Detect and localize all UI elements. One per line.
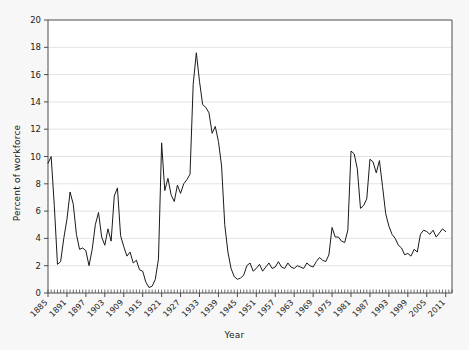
x-tick-label: 1945 [218, 298, 239, 319]
x-tick-label: 1885 [29, 298, 50, 319]
x-tick-label: 1963 [275, 298, 296, 319]
x-tick-label: 1915 [123, 298, 144, 319]
x-tick-label: 1999 [388, 298, 409, 319]
y-tick-label: 8 [36, 179, 41, 189]
y-tick-label: 4 [36, 233, 41, 243]
x-tick-label: 1927 [161, 298, 182, 319]
x-tick-label: 1951 [237, 298, 258, 319]
x-tick-label: 1909 [104, 298, 125, 319]
y-tick-label: 2 [36, 261, 41, 271]
x-tick-label: 1921 [142, 298, 163, 319]
x-tick-label: 2011 [426, 298, 447, 319]
x-tick-label: 2005 [407, 298, 428, 319]
x-tick-label: 1987 [351, 298, 372, 319]
x-tick-label: 1969 [294, 298, 315, 319]
x-tick-label: 1993 [370, 298, 391, 319]
chart-figure: Percent of workforce Year 02468101214161… [0, 0, 469, 350]
y-tick-label: 10 [30, 152, 41, 162]
y-tick-label: 12 [30, 124, 41, 134]
y-tick-label: 18 [30, 42, 41, 52]
y-tick-label: 20 [30, 15, 41, 25]
y-tick-label: 0 [36, 288, 41, 298]
x-tick-label: 1897 [67, 298, 88, 319]
x-tick-label: 1933 [180, 298, 201, 319]
y-tick-label: 16 [30, 70, 41, 80]
y-tick-label: 14 [30, 97, 41, 107]
x-tick-label: 1891 [48, 298, 69, 319]
x-tick-label: 1939 [199, 298, 220, 319]
x-tick-label: 1981 [332, 298, 353, 319]
x-tick-label: 1903 [85, 298, 106, 319]
x-tick-label: 1975 [313, 298, 334, 319]
line-chart-plot: 0246810121416182018851891189719031909191… [0, 0, 469, 350]
y-tick-label: 6 [36, 206, 41, 216]
x-tick-label: 1957 [256, 298, 277, 319]
